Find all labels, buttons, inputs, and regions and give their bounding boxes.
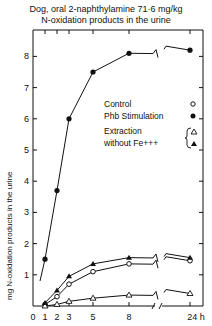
- y-tick-label: 7: [24, 83, 29, 93]
- x-tick-label: 0: [30, 312, 35, 322]
- x-tick-label: 24 h: [187, 312, 205, 322]
- filled-circle-icon: [191, 114, 196, 119]
- legend-label-extraction-1: Extraction: [104, 126, 142, 136]
- y-axis: 12345678: [24, 51, 203, 279]
- x-tick-label: 3: [66, 312, 71, 322]
- open-circle-marker: [91, 269, 96, 274]
- filled-circle-marker: [66, 116, 71, 121]
- filled-circle-marker: [90, 69, 95, 74]
- x-tick-label: 1: [42, 312, 47, 322]
- open-circle-marker: [55, 294, 60, 299]
- legend: Control Phb Stimulation Extraction witho…: [103, 99, 197, 148]
- filled-circle-marker: [54, 188, 59, 193]
- open-triangle-icon: [191, 129, 197, 134]
- legend-label-extraction-2: without Fe+++: [103, 138, 158, 148]
- filled-circle-marker: [42, 257, 47, 262]
- filled-triangle-marker: [126, 255, 132, 260]
- series-line: [45, 257, 190, 305]
- open-circle-marker: [127, 262, 132, 267]
- data-series: [40, 46, 193, 308]
- y-tick-label: 4: [24, 176, 29, 186]
- y-tick-label: 2: [24, 239, 29, 249]
- open-triangle-marker: [126, 292, 132, 297]
- y-tick-label: 1: [24, 270, 29, 280]
- x-axis: 01235824 h: [30, 30, 204, 322]
- y-tick-label: 3: [24, 207, 29, 217]
- filled-triangle-marker: [66, 273, 72, 278]
- y-axis-label: mg N-oxidation products in the urine: [5, 171, 14, 300]
- series-line: [40, 46, 190, 281]
- plot-frame: [33, 30, 203, 309]
- y-tick-label: 6: [24, 114, 29, 124]
- open-circle-marker: [67, 282, 72, 287]
- x-tick-label: 2: [54, 312, 59, 322]
- brace-icon: [185, 128, 191, 148]
- legend-label-control: Control: [104, 99, 132, 109]
- line-chart: 12345678 01235824 h mg N-oxidation produ…: [0, 0, 212, 326]
- x-tick-label: 8: [126, 312, 131, 322]
- filled-triangle-icon: [191, 141, 197, 146]
- filled-circle-marker: [187, 48, 192, 53]
- legend-label-phb: Phb Stimulation: [104, 111, 164, 121]
- x-tick-label: 5: [90, 312, 95, 322]
- open-circle-icon: [191, 102, 195, 106]
- y-tick-label: 5: [24, 145, 29, 155]
- filled-circle-marker: [126, 51, 131, 56]
- y-tick-label: 8: [24, 51, 29, 61]
